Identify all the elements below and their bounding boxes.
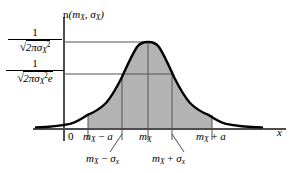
peak-radical-bar xyxy=(26,40,51,41)
mx-minus-a-operator: − xyxy=(96,130,108,142)
inflection-denominator: 2πσX2e xyxy=(6,71,64,86)
y-tick-label-inflection-density: 1 2πσX2e xyxy=(6,57,64,86)
inflection-numerator: 1 xyxy=(6,57,64,70)
inflection-denominator-suffix: e xyxy=(48,72,53,84)
peak-denominator: 2πσX2 xyxy=(8,40,62,55)
origin-label: 0 xyxy=(68,131,74,142)
mx-plus-sigma-operator: + xyxy=(165,152,177,164)
shaded-probability-area xyxy=(88,42,212,129)
inflection-radical-sign: 2πσX2e xyxy=(17,72,53,86)
peak-numerator: 1 xyxy=(8,26,62,39)
mx-plus-a-operator: + xyxy=(209,130,221,142)
mx-minus-a-term: a xyxy=(107,130,113,142)
y-axis-title-close-paren: ) xyxy=(100,8,104,20)
x-tick-label-mx-plus-sigma: mX + σx xyxy=(152,153,185,166)
mx-plus-sigma-term-sub: x xyxy=(182,157,185,166)
mx-minus-a-mean: m xyxy=(83,130,91,142)
peak-denominator-sup: 2 xyxy=(47,41,51,49)
gaussian-distribution-figure: n(mX, σX) 1 2πσX2 1 2πσX2e 0 mX − a mX m… xyxy=(0,0,294,173)
x-tick-label-mx-minus-sigma: mX − σx xyxy=(86,153,119,166)
inflection-denominator-prefix: 2πσ xyxy=(23,72,39,84)
inflection-radical-bar xyxy=(23,71,53,72)
y-tick-label-peak-density: 1 2πσX2 xyxy=(8,26,62,55)
mx-plus-a-term: a xyxy=(220,130,226,142)
mx-plus-sigma-mean: m xyxy=(152,152,160,164)
x-tick-label-mx: mX xyxy=(139,131,152,144)
mx-minus-sigma-operator: − xyxy=(99,152,111,164)
mx-plus-a-mean: m xyxy=(196,130,204,142)
leader-line-mx-plus-sigma xyxy=(172,134,184,152)
y-axis-title: n(mX, σX) xyxy=(63,9,104,22)
peak-denominator-prefix: 2πσ xyxy=(26,41,42,53)
x-tick-label-mx-minus-a: mX − a xyxy=(83,131,113,144)
mx-mean: m xyxy=(139,130,147,142)
mx-mean-sub: X xyxy=(147,135,152,144)
peak-radical-sign: 2πσX2 xyxy=(20,41,51,55)
y-axis-title-mean: m xyxy=(72,8,80,20)
mx-minus-sigma-term-sub: x xyxy=(116,157,119,166)
mx-minus-sigma-mean: m xyxy=(86,152,94,164)
x-tick-label-mx-plus-a: mX + a xyxy=(196,131,226,144)
x-axis-title: x xyxy=(277,127,282,138)
